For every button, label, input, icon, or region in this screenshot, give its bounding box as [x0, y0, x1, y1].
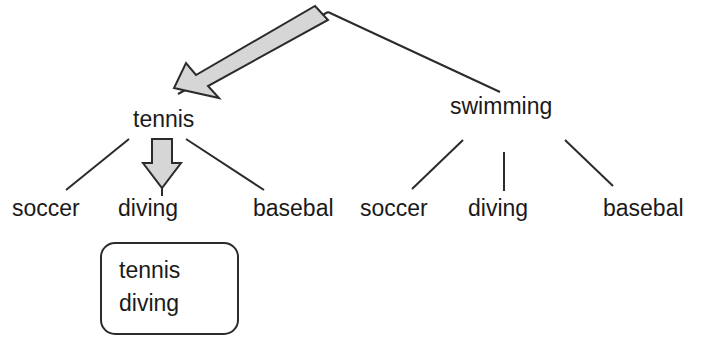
decision-tree-diagram: tennis swimming soccer diving basebal so… — [0, 0, 703, 350]
edge-root-to-swimming — [328, 12, 500, 92]
edge-swimming-to-baseball — [565, 140, 613, 186]
tree-edges-and-arrows — [0, 0, 703, 350]
down-block-arrow — [143, 139, 181, 188]
node-label-swimming-soccer[interactable]: soccer — [360, 197, 428, 220]
node-label-swimming-diving[interactable]: diving — [468, 197, 528, 220]
edge-swimming-to-soccer — [412, 140, 463, 189]
callout-line-diving: diving — [119, 292, 179, 315]
node-label-swimming-baseball[interactable]: basebal — [603, 197, 684, 220]
callout-line-tennis: tennis — [119, 259, 180, 282]
node-label-swimming[interactable]: swimming — [450, 95, 552, 118]
large-pointer-arrow — [174, 6, 328, 98]
node-label-tennis-diving[interactable]: diving — [118, 197, 178, 220]
edge-tennis-to-soccer — [66, 139, 129, 190]
node-label-tennis-soccer[interactable]: soccer — [12, 197, 80, 220]
edge-tennis-to-baseball — [186, 139, 264, 190]
node-label-tennis[interactable]: tennis — [133, 108, 194, 131]
node-label-tennis-baseball[interactable]: basebal — [253, 197, 334, 220]
